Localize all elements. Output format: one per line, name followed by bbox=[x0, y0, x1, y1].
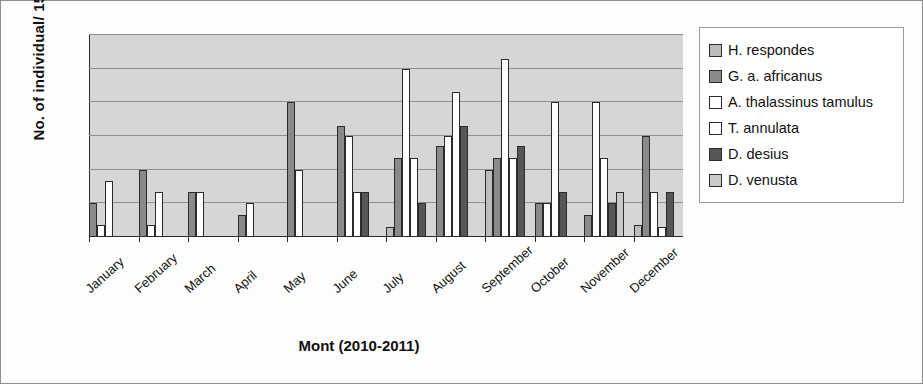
legend-label: G. a. africanus bbox=[728, 68, 822, 84]
legend-item[interactable]: A. thalassinus tamulus bbox=[709, 89, 896, 115]
bar bbox=[658, 227, 666, 237]
bar bbox=[666, 192, 674, 237]
bar bbox=[196, 192, 204, 237]
legend-item[interactable]: G. a. africanus bbox=[709, 63, 896, 89]
x-axis-tick-label: March bbox=[181, 261, 218, 296]
legend-color-swatch bbox=[709, 96, 722, 109]
bar-group bbox=[337, 35, 387, 237]
x-axis-tick-label: September bbox=[478, 242, 535, 296]
bar bbox=[238, 215, 246, 237]
x-axis-tick-label: November bbox=[577, 245, 632, 296]
bar bbox=[353, 192, 361, 237]
legend-color-swatch bbox=[709, 174, 722, 187]
bar bbox=[452, 92, 460, 237]
bar bbox=[600, 158, 608, 237]
plot-area: 0123456 bbox=[89, 35, 683, 237]
legend-color-swatch bbox=[709, 148, 722, 161]
legend-label: D. venusta bbox=[728, 172, 797, 188]
bar bbox=[155, 192, 163, 237]
bar bbox=[337, 126, 345, 237]
bar bbox=[105, 181, 113, 237]
bar bbox=[418, 203, 426, 237]
bar bbox=[501, 59, 509, 237]
bar-group bbox=[188, 35, 238, 237]
bar-group bbox=[287, 35, 337, 237]
y-axis-title: No. of individual/ 15m2 bbox=[29, 0, 47, 173]
bar-group bbox=[238, 35, 288, 237]
chart-legend: H. respondesG. a. africanusA. thalassinu… bbox=[699, 27, 904, 203]
bar bbox=[493, 158, 501, 237]
legend-label: H. respondes bbox=[728, 42, 814, 58]
bar bbox=[97, 225, 105, 237]
bar bbox=[287, 102, 295, 237]
legend-item[interactable]: T. annulata bbox=[709, 115, 896, 141]
x-axis-tick-labels: JanuaryFebruaryMarchAprilMayJuneJulyAugu… bbox=[89, 237, 683, 317]
x-axis-tick-label: April bbox=[231, 268, 260, 297]
legend-item[interactable]: D. desius bbox=[709, 141, 896, 167]
bar-group bbox=[139, 35, 189, 237]
x-axis-tick-label: August bbox=[429, 258, 469, 296]
legend-item[interactable]: H. respondes bbox=[709, 37, 896, 63]
bar bbox=[460, 126, 468, 237]
bar bbox=[642, 136, 650, 237]
bar bbox=[535, 203, 543, 237]
bar bbox=[345, 136, 353, 237]
bar bbox=[517, 146, 525, 237]
bar bbox=[616, 192, 624, 237]
x-axis-tick-label: January bbox=[82, 254, 126, 296]
x-axis-tick-label: October bbox=[528, 254, 572, 296]
bar bbox=[386, 227, 394, 237]
bar bbox=[246, 203, 254, 237]
bar-groups bbox=[89, 35, 683, 237]
bar-group bbox=[386, 35, 436, 237]
bar-group bbox=[89, 35, 139, 237]
bar bbox=[410, 158, 418, 237]
bar bbox=[608, 203, 616, 237]
bar bbox=[559, 192, 567, 237]
bar bbox=[361, 192, 369, 237]
legend-color-swatch bbox=[709, 70, 722, 83]
bar bbox=[188, 192, 196, 237]
bar-group bbox=[634, 35, 684, 237]
bar bbox=[402, 69, 410, 237]
x-axis-title: Mont (2010-2011) bbox=[0, 337, 922, 354]
legend-item[interactable]: D. venusta bbox=[709, 167, 896, 193]
bar-group bbox=[485, 35, 535, 237]
legend-color-swatch bbox=[709, 44, 722, 57]
bar bbox=[295, 170, 303, 237]
bar bbox=[543, 203, 551, 237]
legend-label: A. thalassinus tamulus bbox=[728, 94, 873, 110]
bar bbox=[139, 170, 147, 237]
bar bbox=[485, 170, 493, 237]
bar-group bbox=[535, 35, 585, 237]
bar bbox=[650, 192, 658, 237]
legend-label: T. annulata bbox=[728, 120, 799, 136]
x-axis-tick-label: July bbox=[379, 269, 406, 296]
bar-group bbox=[436, 35, 486, 237]
bar bbox=[551, 102, 559, 237]
bar bbox=[584, 215, 592, 237]
chart-figure: No. of individual/ 15m2 0123456 JanuaryF… bbox=[0, 0, 923, 384]
bar bbox=[444, 136, 452, 237]
y-axis-title-text: No. of individual/ 15m bbox=[30, 0, 47, 141]
bar bbox=[89, 203, 97, 237]
x-axis-tick-label: May bbox=[280, 268, 308, 296]
bar bbox=[147, 225, 155, 237]
legend-color-swatch bbox=[709, 122, 722, 135]
legend-label: D. desius bbox=[728, 146, 788, 162]
bar bbox=[509, 158, 517, 237]
x-axis-tick-label: June bbox=[330, 266, 361, 296]
x-axis-tick-label: February bbox=[132, 250, 181, 296]
bar-group bbox=[584, 35, 634, 237]
x-axis-tick-label: December bbox=[627, 245, 682, 296]
bar bbox=[394, 158, 402, 237]
bar bbox=[436, 146, 444, 237]
bar bbox=[634, 225, 642, 237]
bar bbox=[592, 102, 600, 237]
